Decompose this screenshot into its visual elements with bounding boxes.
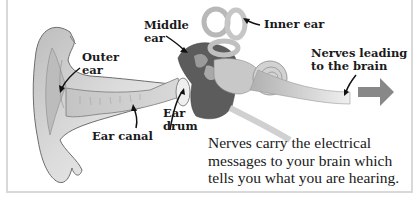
direction-arrow-icon bbox=[358, 78, 394, 106]
caption-line: messages to your brain which bbox=[208, 152, 408, 170]
caption-line: Nerves carry the electrical bbox=[208, 134, 408, 152]
nerve-bundle-shape bbox=[250, 70, 350, 104]
label-inner-ear: Inner ear bbox=[264, 18, 324, 31]
label-outer-ear: Outer ear bbox=[82, 51, 119, 77]
caption-text: Nerves carry the electrical messages to … bbox=[208, 134, 408, 187]
label-ear-canal: Ear canal bbox=[92, 130, 153, 143]
caption-line: tells you what you are hearing. bbox=[208, 169, 408, 187]
label-nerves-to-brain: Nerves leading to the brain bbox=[311, 47, 407, 73]
label-ear-drum: Ear drum bbox=[163, 107, 198, 133]
label-middle-ear: Middle ear bbox=[144, 19, 189, 45]
